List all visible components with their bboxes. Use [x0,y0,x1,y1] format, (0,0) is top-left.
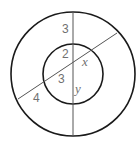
label-outer-top-segment: 3 [62,22,69,36]
label-inner-left-segment: 3 [58,72,65,86]
label-inner-top-segment: 2 [62,47,69,61]
label-outer-left-segment: 4 [33,91,40,105]
label-inner-right-segment-x: x [81,54,88,69]
concentric-circles-diagram: 3 2 x 3 4 y [0,0,139,142]
label-inner-bottom-segment-y: y [73,81,81,96]
